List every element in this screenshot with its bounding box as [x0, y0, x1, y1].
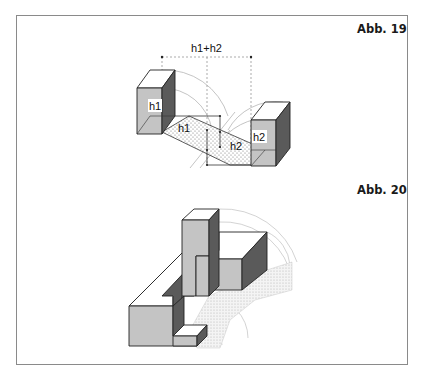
figure-20: [129, 209, 297, 348]
dimension-label: h1+h2: [191, 42, 222, 54]
label-h1-block: h1: [149, 100, 161, 112]
diagram-canvas: h1+h2 h1 h1: [0, 0, 425, 383]
label-h2-block: h2: [253, 131, 265, 143]
label-h1-shadow: h1: [178, 122, 190, 134]
tall-pillar: [182, 209, 219, 296]
label-h2-shadow: h2: [230, 140, 242, 152]
figure-19: h1+h2 h1 h1: [137, 42, 290, 168]
